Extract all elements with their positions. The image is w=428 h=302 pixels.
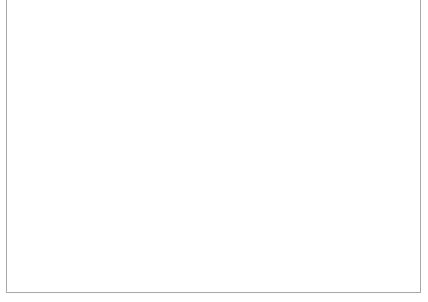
- hotspot-orlando: [342, 212, 364, 234]
- hotspot-salt-lake-city: [89, 104, 115, 130]
- hotspot-nashville: [276, 149, 300, 173]
- hotspot-denver: [137, 108, 181, 152]
- legend-label-greater-than-1000: Greater Than 1,000: [58, 253, 107, 261]
- legend-entry-high: Greater Than 1,000: [33, 250, 133, 263]
- population-density-figure: Individuals Per Square Mile Greater Than…: [0, 0, 428, 302]
- legend-entry-low: Less Than 1: [33, 266, 133, 279]
- hotspot-albuquerque: [122, 165, 146, 189]
- legend-swatch-greater-than-1000: [33, 251, 52, 263]
- legend-label-less-than-1: Less Than 1: [58, 269, 89, 277]
- legend-title: Individuals Per Square Mile: [33, 238, 133, 247]
- hotspot-minneapolis: [221, 58, 261, 98]
- hotspot-kansas-city: [197, 125, 227, 155]
- hotspot-las-vegas: [58, 137, 84, 163]
- hotspot-sacramento: [27, 104, 55, 132]
- hotspot-charlotte: [326, 154, 350, 178]
- legend-swatch-less-than-1: [33, 267, 52, 279]
- hotspot-st-louis: [222, 130, 254, 162]
- map-canvas: Individuals Per Square Mile Greater Than…: [7, 0, 420, 294]
- hotspot-memphis: [245, 158, 267, 180]
- hotspot-cincinnati: [288, 118, 314, 144]
- map-legend: Individuals Per Square Mile Greater Than…: [27, 233, 139, 288]
